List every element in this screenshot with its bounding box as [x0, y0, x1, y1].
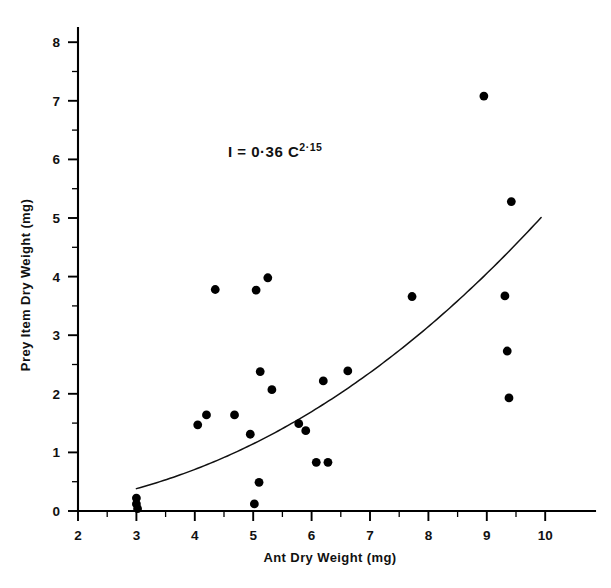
data-point [211, 285, 220, 294]
equation-annotation: I = 0·36 C2·15 [228, 141, 322, 160]
x-tick-label: 6 [308, 528, 316, 543]
data-point [133, 504, 142, 513]
data-point [503, 347, 512, 356]
axes-group [78, 28, 595, 511]
x-axis-ticks [78, 511, 545, 521]
y-tick-label: 6 [52, 152, 60, 167]
x-tick-label: 9 [483, 528, 491, 543]
y-tick-label: 3 [52, 328, 60, 343]
data-point [324, 458, 333, 467]
y-tick-label: 1 [52, 445, 60, 460]
y-tick-label: 4 [52, 270, 60, 285]
y-tick-label: 5 [52, 211, 60, 226]
data-point [507, 197, 516, 206]
data-point [202, 411, 211, 420]
data-point [250, 500, 259, 509]
data-point [193, 420, 202, 429]
x-axis-title: Ant Dry Weight (mg) [263, 550, 396, 565]
equation-main-text: I = 0·36 C [228, 143, 299, 160]
data-point [301, 426, 310, 435]
data-point [256, 367, 265, 376]
y-tick-label: 8 [52, 35, 60, 50]
data-point [263, 273, 272, 282]
power-law-fit-curve [136, 217, 541, 488]
x-tick-label: 8 [425, 528, 433, 543]
data-point [312, 458, 321, 467]
x-tick-label: 10 [538, 528, 553, 543]
data-point [479, 92, 488, 101]
y-tick-label: 2 [52, 387, 60, 402]
x-tick-label: 5 [249, 528, 257, 543]
data-point [343, 367, 352, 376]
data-point [255, 478, 264, 487]
data-point [501, 292, 510, 301]
y-axis-title: Prey Item Dry Weight (mg) [18, 199, 33, 371]
data-point [267, 385, 276, 394]
data-point [319, 377, 328, 386]
data-point [408, 292, 417, 301]
data-point [230, 411, 239, 420]
x-tick-label: 4 [191, 528, 199, 543]
data-point [252, 286, 261, 295]
equation-exponent-text: 2·15 [299, 141, 322, 153]
data-point [505, 394, 514, 403]
x-tick-label: 3 [133, 528, 141, 543]
data-point [246, 430, 255, 439]
scatter-plot-figure: 2345678910 012345678 I = 0·36 C2·15 Ant … [0, 0, 611, 588]
y-tick-label: 7 [52, 94, 60, 109]
data-points-group [132, 92, 516, 513]
data-point [294, 419, 303, 428]
x-tick-label: 2 [74, 528, 82, 543]
x-axis-tick-labels: 2345678910 [74, 528, 552, 543]
y-axis-ticks [68, 42, 78, 511]
y-axis-tick-labels: 012345678 [52, 35, 60, 519]
y-tick-label: 0 [52, 504, 60, 519]
x-tick-label: 7 [366, 528, 374, 543]
plot-canvas: 2345678910 012345678 I = 0·36 C2·15 Ant … [0, 0, 611, 588]
